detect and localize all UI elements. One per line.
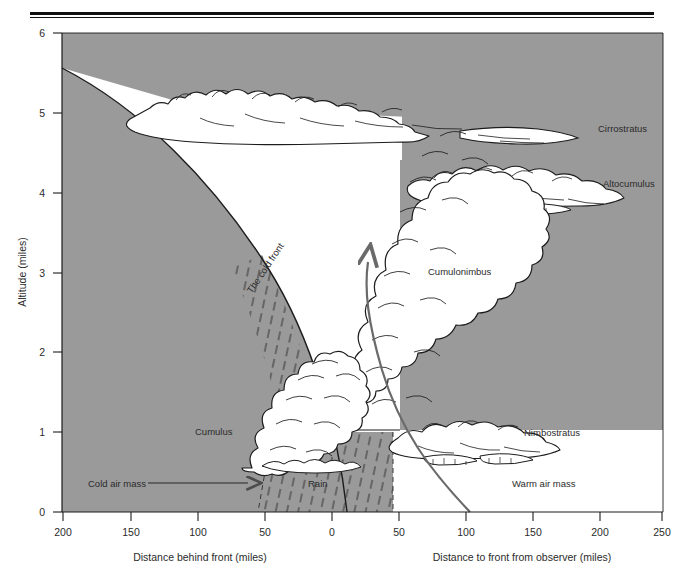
label-cumulus: Cumulus [195,426,233,437]
x-left-tick-200: 200 [54,526,72,538]
x-right-tick-100: 100 [457,526,475,538]
label-nimbostratus: Nimbostratus [524,427,580,438]
label-rain: Rain [308,478,328,489]
x-tick-labels-left: 200 150 100 50 0 [54,526,335,538]
x-left-tick-0: 0 [329,526,335,538]
y-ticks [53,33,62,512]
x-right-tick-250: 250 [653,526,671,538]
y-tick-1: 1 [39,426,45,438]
x-right-tick-50: 50 [393,526,405,538]
weather-front-diagram: 0 1 2 3 4 5 6 Altitude (miles) [0,0,684,576]
x-left-tick-50: 50 [259,526,271,538]
y-tick-4: 4 [39,187,45,199]
y-tick-0: 0 [39,506,45,518]
x-right-tick-150: 150 [524,526,542,538]
plot-area: 0 1 2 3 4 5 6 Altitude (miles) [16,27,671,563]
y-tick-2: 2 [39,346,45,358]
label-warm-air-mass: Warm air mass [512,478,576,489]
y-axis-title: Altitude (miles) [16,237,28,306]
y-tick-labels: 0 1 2 3 4 5 6 [39,27,45,518]
label-cirrostratus: Cirrostratus [598,123,647,134]
label-cold-air-mass: Cold air mass [88,478,146,489]
x-tick-labels-right: 50 100 150 200 250 [393,526,671,538]
x-left-tick-150: 150 [122,526,140,538]
x-right-tick-200: 200 [591,526,609,538]
y-tick-6: 6 [39,27,45,39]
figure-root: 0 1 2 3 4 5 6 Altitude (miles) [0,0,684,576]
label-altocumulus: Altocumulus [603,178,655,189]
x-axis-title-left: Distance behind front (miles) [133,551,267,563]
x-left-tick-100: 100 [189,526,207,538]
label-cumulonimbus: Cumulonimbus [428,266,492,277]
y-tick-3: 3 [39,267,45,279]
y-tick-5: 5 [39,107,45,119]
x-ticks [63,512,662,521]
x-axis-title-right: Distance to front from observer (miles) [433,551,612,563]
